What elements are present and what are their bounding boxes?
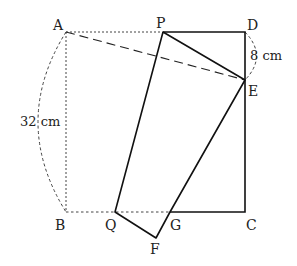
solid-edge-PDCG <box>163 32 245 212</box>
label-D: D <box>247 17 258 33</box>
dashed-line-AE <box>66 32 245 80</box>
label-F: F <box>150 241 160 257</box>
label-B: B <box>55 217 65 233</box>
label-C: C <box>246 217 257 233</box>
label-P: P <box>156 15 165 31</box>
label-E: E <box>248 83 258 99</box>
geometry-diagram: A P D E B Q G C F 32 cm 8 cm <box>0 0 297 266</box>
measure-AB: 32 cm <box>20 114 60 129</box>
label-G: G <box>170 217 181 233</box>
label-A: A <box>52 17 64 33</box>
label-Q: Q <box>105 217 116 233</box>
measure-DE: 8 cm <box>250 48 282 63</box>
